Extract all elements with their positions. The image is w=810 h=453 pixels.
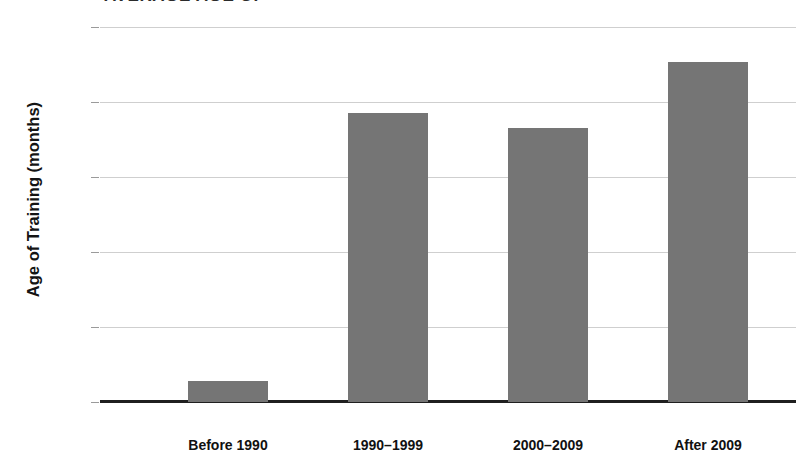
x-axis-tick-label: Before 1990 (148, 437, 308, 453)
y-axis-tick-mark (91, 252, 99, 253)
bars-group (100, 27, 796, 402)
x-axis-tick-label: After 2009 (628, 437, 788, 453)
y-axis-tick-mark (91, 102, 99, 103)
bar (188, 381, 268, 402)
chart-title: AVERAGE AGE OF (104, 0, 524, 4)
plot-area: 3030.53131.53232.5 Before 19901990–19992… (100, 27, 796, 402)
bar (668, 62, 748, 403)
bar (348, 113, 428, 403)
x-axis-tick-label: 2000–2009 (468, 437, 628, 453)
y-axis-tick-mark (91, 177, 99, 178)
y-axis-tick-mark (91, 402, 99, 403)
y-axis-tick-mark (91, 327, 99, 328)
bar (508, 128, 588, 403)
y-axis-tick-mark (91, 27, 99, 28)
y-axis-title: Age of Training (months) (24, 50, 43, 350)
x-axis-tick-label: 1990–1999 (308, 437, 468, 453)
